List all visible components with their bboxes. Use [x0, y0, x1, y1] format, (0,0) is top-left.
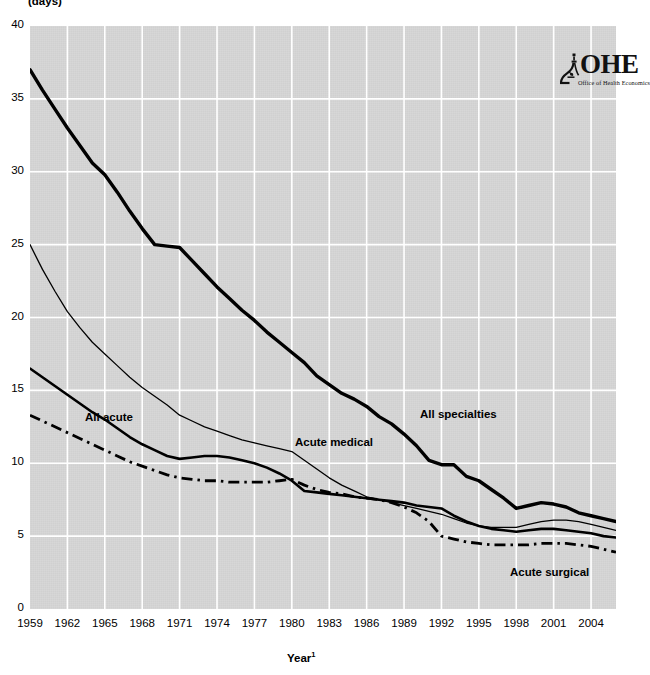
- y-axis-tick-15: 15: [2, 382, 24, 394]
- x-axis-tick-1968: 1968: [122, 617, 162, 629]
- data-lines: [30, 26, 616, 609]
- series-line-acute-medical: [30, 245, 616, 531]
- x-axis-title-text: Year: [287, 652, 311, 664]
- series-line-all-specialties: [30, 70, 616, 522]
- x-axis-tick-1989: 1989: [384, 617, 424, 629]
- x-axis-tick-1971: 1971: [160, 617, 200, 629]
- x-axis-title-superscript: 1: [311, 650, 315, 659]
- x-axis-tick-2004: 2004: [571, 617, 611, 629]
- logo-subtitle: Office of Health Economics: [578, 79, 650, 86]
- x-axis-tick-1980: 1980: [272, 617, 312, 629]
- y-axis-unit-label: (days): [28, 0, 62, 7]
- y-axis-tick-20: 20: [2, 310, 24, 322]
- series-label-all-acute: All acute: [85, 411, 133, 423]
- x-axis-tick-1974: 1974: [197, 617, 237, 629]
- x-axis-tick-1965: 1965: [85, 617, 125, 629]
- y-axis-tick-5: 5: [2, 528, 24, 540]
- x-axis-tick-1992: 1992: [421, 617, 461, 629]
- y-axis-tick-25: 25: [2, 237, 24, 249]
- series-label-acute-surgical: Acute surgical: [510, 566, 589, 578]
- x-axis-title: Year1: [287, 650, 315, 664]
- y-axis-tick-40: 40: [2, 18, 24, 30]
- x-axis-tick-2001: 2001: [534, 617, 574, 629]
- y-axis-tick-0: 0: [2, 601, 24, 613]
- plot-area: All acute Acute medical All specialties …: [30, 26, 616, 609]
- y-axis-tick-30: 30: [2, 164, 24, 176]
- series-line-all-acute: [30, 369, 616, 538]
- y-axis-tick-10: 10: [2, 455, 24, 467]
- ohe-logo: OHE Office of Health Economics: [558, 50, 646, 94]
- x-axis-tick-1959: 1959: [10, 617, 50, 629]
- x-axis-tick-1998: 1998: [496, 617, 536, 629]
- y-axis-tick-35: 35: [2, 91, 24, 103]
- logo-wordmark: OHE: [580, 51, 639, 78]
- x-axis-tick-1986: 1986: [347, 617, 387, 629]
- x-axis-tick-1983: 1983: [309, 617, 349, 629]
- x-axis-tick-1962: 1962: [47, 617, 87, 629]
- x-axis-tick-1995: 1995: [459, 617, 499, 629]
- series-label-acute-medical: Acute medical: [295, 436, 373, 448]
- x-axis-tick-1977: 1977: [234, 617, 274, 629]
- series-label-all-specialties: All specialties: [420, 408, 497, 420]
